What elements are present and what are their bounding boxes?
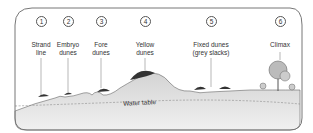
stage-label-1: Strand line [31,41,50,56]
ground-profile [15,73,300,130]
stage-label-5: Fixed dunes (grey slacks) [193,41,230,56]
stage-number-1: 1 [36,16,47,27]
stage-number-2: 2 [63,16,74,27]
tree-icon [260,61,295,91]
stage-number-3: 3 [96,16,107,27]
stage-number-4: 4 [140,16,151,27]
stage-number-6: 6 [275,16,286,27]
stage-number-5: 5 [206,16,217,27]
stage-label-3: Fore dunes [92,41,110,56]
dune-succession-diagram: 1 2 3 4 5 6 Strand line Embryo dunes For… [0,0,313,133]
stage-label-4: Yellow dunes [136,41,155,56]
stage-label-6: Climax [270,41,290,49]
stage-label-2: Embryo dunes [57,41,79,56]
